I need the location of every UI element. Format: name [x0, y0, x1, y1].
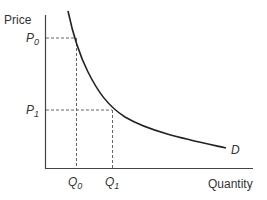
q0-label: Q0 [68, 175, 82, 191]
x-axis-label: Quantity [208, 177, 253, 191]
demand-chart: Price Quantity P0 P1 Q0 Q1 D [0, 0, 267, 200]
y-axis-label: Price [4, 13, 32, 27]
p0-label: P0 [26, 31, 39, 47]
p1-label: P1 [26, 103, 39, 119]
guide-lines [46, 38, 113, 168]
q1-label: Q1 [105, 175, 119, 191]
demand-curve [68, 11, 226, 148]
curve-label-d: D [231, 143, 240, 157]
